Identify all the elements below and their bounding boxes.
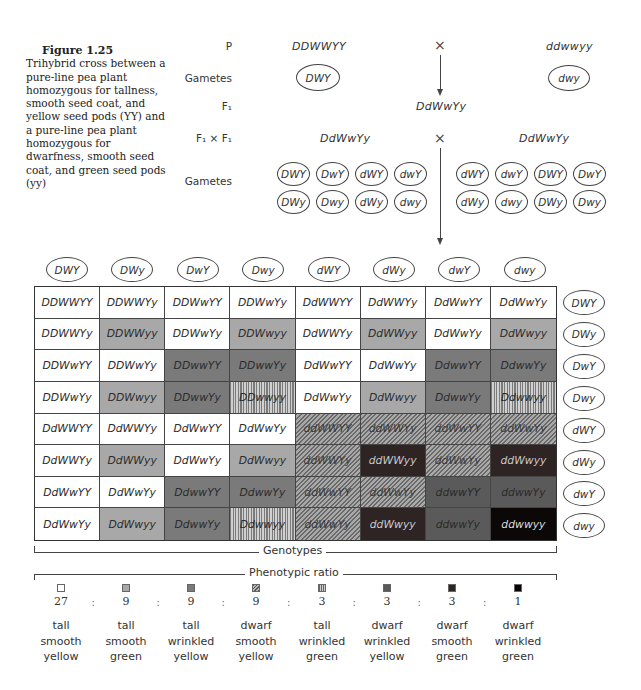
f1-right-gamete: DwY [573,162,606,186]
parent1-genotype: DDWWYY [292,40,346,53]
phenotype-seed: wrinkled [161,634,221,650]
punnett-cell: DdwwYY [165,477,230,509]
punnett-cell: DDWwYy [100,350,165,382]
phenotype-legend-item: 1dwarfwrinkledgreen [488,584,548,665]
punnett-cell: DdWwyy [230,445,295,477]
ratio-separator: : [418,597,421,608]
punnett-cell: DdWwyy [361,382,426,414]
punnett-cell: DdWWyy [361,319,426,351]
punnett-cell: ddwwYy [491,477,556,509]
phenotype-seed: wrinkled [292,634,352,650]
punnett-cell: ddwwYY [426,477,491,509]
f1-right-genotype: DdWwYy [519,132,569,145]
phenotype-ratio: 9 [161,595,221,608]
punnett-cell: ddWwYy [296,508,361,540]
phenotype-swatch-icon [187,584,195,592]
punnett-cell: ddWWYy [296,445,361,477]
phenotype-swatch-icon [318,584,326,592]
phenotype-height: dwarf [226,618,286,634]
f1-left-gamete: dWy [355,190,388,214]
phenotype-height: tall [96,618,156,634]
punnett-cell: DdWWYy [296,319,361,351]
phenotype-legend-item: 9tallsmoothgreen [96,584,156,665]
column-gamete: dWy [373,257,415,282]
phenotype-height: tall [292,618,352,634]
punnett-cell: DdWWYY [35,414,100,446]
punnett-cell: DdWWyy [100,445,165,477]
column-gamete: DwY [177,257,219,282]
phenotype-swatch-icon [252,584,260,592]
column-gamete: dwy [504,257,546,282]
punnett-cell: DdWwYy [426,319,491,351]
punnett-cell: ddWwyy [361,508,426,540]
phenotype-bracket-right [556,574,557,580]
punnett-cell: DdWwYy [35,508,100,540]
punnett-cell: DDWwYy [230,287,295,319]
phenotype-seed: wrinkled [488,634,548,650]
punnett-cell: DDWwYy [165,319,230,351]
punnett-cell: DdWwYy [100,477,165,509]
phenotype-pod: green [422,649,482,665]
f1-genotype: DdWwYy [416,100,466,113]
punnett-cell: DdWWYy [361,287,426,319]
punnett-cell: DdWWYY [296,287,361,319]
punnett-cell: DDWwYY [35,350,100,382]
punnett-cell: ddWwYy [361,477,426,509]
parent1-gamete: DWY [296,64,340,91]
punnett-cell: ddWWYy [361,414,426,446]
phenotype-seed: smooth [226,634,286,650]
punnett-cell: DdWwYY [165,414,230,446]
phenotype-legend-item: 3dwarfsmoothgreen [422,584,482,665]
phenotype-pod: yellow [161,649,221,665]
punnett-cell: DDwwyy [230,382,295,414]
label-f1: F₁ [162,100,232,112]
punnett-cell: DDWwyy [230,319,295,351]
ratio-separator: : [222,597,225,608]
phenotype-legend-item: 3dwarfwrinkledyellow [357,584,417,665]
column-gamete: dWY [308,257,350,282]
punnett-cell: DdWwYy [296,382,361,414]
punnett-cell: ddWwYy [491,414,556,446]
phenotype-ratio: 9 [226,595,286,608]
figure-label: Figure 1.25 [26,44,171,57]
column-gamete: DWY [46,257,88,282]
f1-right-gamete: dWY [456,162,489,186]
phenotype-legend-item: 3tallwrinkledgreen [292,584,352,665]
phenotype-height: tall [161,618,221,634]
parent2-genotype: ddwwyy [546,40,593,53]
punnett-cell: DdWwYY [35,477,100,509]
f1-left-gamete: dwY [394,162,427,186]
f1-right-gamete: dwy [495,190,528,214]
phenotypic-ratio-label: Phenotypic ratio [245,566,343,579]
punnett-cell: DdwwYY [426,350,491,382]
ratio-separator: : [483,597,486,608]
f1-right-gamete: DWy [534,190,567,214]
punnett-cell: DdWwyy [100,508,165,540]
punnett-cell: DDWWyy [100,319,165,351]
row-gamete: DWY [563,290,605,315]
label-gametes-f1: Gametes [162,175,232,187]
phenotype-swatch-icon [448,584,456,592]
punnett-square: DDWWYYDDWWYyDDWwYYDDWwYyDdWWYYDdWWYyDdWw… [34,286,557,541]
phenotype-pod: green [488,649,548,665]
genotypes-bracket-right [556,546,557,552]
phenotype-seed: smooth [96,634,156,650]
phenotype-legend-item: 9dwarfsmoothyellow [226,584,286,665]
column-gamete: Dwy [242,257,284,282]
f1-right-gamete: dwY [495,162,528,186]
punnett-cell: DdwwYy [165,508,230,540]
phenotype-legend-item: 9tallwrinkledyellow [161,584,221,665]
punnett-cell: DdWwYy [491,287,556,319]
phenotype-pod: yellow [226,649,286,665]
punnett-cell: DDWwYy [35,382,100,414]
punnett-cell: DdWwYy [230,414,295,446]
ratio-separator: : [353,597,356,608]
f1-left-gamete: dWY [355,162,388,186]
cross-symbol-parental: × [434,37,446,53]
ratio-separator: : [287,597,290,608]
row-gamete: DwY [563,354,605,379]
punnett-cell: DdWWYy [35,445,100,477]
phenotype-ratio: 3 [357,595,417,608]
f1-left-gamete: DwY [316,162,349,186]
punnett-cell: ddWWyy [361,445,426,477]
